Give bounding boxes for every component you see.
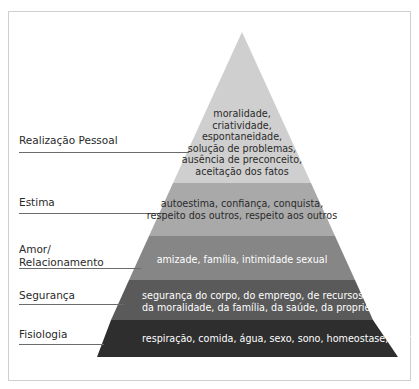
text-line: amizade, família, intimidade sexual [142, 254, 342, 266]
text-line: da moralidade, da família, da saúde, da … [142, 302, 342, 314]
text-line: respiração, comida, água, sexo, sono, ho… [142, 333, 342, 345]
text-line: aceitação dos fatos [142, 166, 342, 178]
layer-text-estima: autoestima, confiança, conquista, respei… [142, 198, 342, 221]
label-line [19, 268, 141, 269]
text-line: segurança do corpo, do emprego, de recur… [142, 290, 342, 302]
layer-text-seguranca: segurança do corpo, do emprego, de recur… [142, 290, 342, 313]
text-line: moralidade, [142, 108, 342, 120]
label-amor: Amor/ [19, 243, 104, 256]
layer-text-realizacao: moralidade, criatividade, espontaneidade… [142, 108, 342, 178]
label-line [19, 304, 124, 305]
label-amor-relacionamento: Amor/ Relacionamento [19, 243, 104, 269]
text-line: espontaneidade, [142, 131, 342, 143]
text-line: ausência de preconceito, [142, 154, 342, 166]
layer-text-amor: amizade, família, intimidade sexual [142, 254, 342, 266]
text-line: criatividade, [142, 120, 342, 132]
text-line: solução de problemas, [142, 143, 342, 155]
text-line: autoestima, confiança, conquista, [142, 198, 342, 210]
label-fisiologia: Fisiologia [19, 328, 67, 341]
label-realizacao-pessoal: Realização Pessoal [19, 134, 118, 147]
label-seguranca: Segurança [19, 289, 75, 302]
text-line: respeito dos outros, respeito aos outros [142, 210, 342, 222]
layer-text-fisiologia: respiração, comida, água, sexo, sono, ho… [142, 333, 342, 345]
label-line [19, 344, 104, 345]
label-estima: Estima [19, 196, 55, 209]
